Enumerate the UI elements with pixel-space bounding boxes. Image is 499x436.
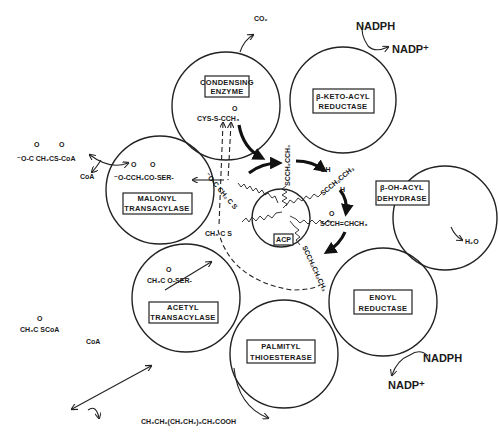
keto-reductase-label-2: REDUCTASE [319,102,368,111]
crotonyl-oxo: O [329,210,335,217]
h-label: H [340,186,345,193]
acp-label: ACP [276,236,291,243]
co2-label: CO₂ [254,15,268,22]
thioesterase-label-2: THIOESTERASE [250,353,312,362]
acetyl-coa-oxo: O [37,315,43,322]
keto-reductase-label-1: β-KETO-ACYL [316,92,370,101]
malonyl-transacylase-label-2: TRANSACYLASE [124,204,189,213]
butyryl-acp-label: SCCH₂CH₂CH₃ [301,244,328,292]
coa-malonyl-label: CoA [80,173,94,180]
fatty-acid-synthase-diagram: CONDENSING ENZYME β-KETO-ACYL REDUCTASE … [0,0,499,436]
oh-label: OH [320,166,331,173]
oh-acyl-dehydrase: β-OH-ACYL DEHYDRASE [376,166,497,270]
keto-acyl-reductase: β-KETO-ACYL REDUCTASE [290,47,396,153]
nadph-bottom-label: NADPH [423,352,462,364]
acp-center: ACP [252,189,310,247]
condensing-oxo: O [232,105,238,112]
enoyl-reductase: ENOYL REDUCTASE [329,248,437,356]
malonyl-coa-label: ⁻O-C CH₂CS-CoA [17,155,75,162]
acetyl-coa-label: CH₃C SCoA [20,326,59,333]
crotonyl-acp-label: SCCH=CHCH₃ [320,220,367,227]
acetyl-transacylase-label-1: ACETYL [167,303,199,312]
enoyl-reductase-label-2: REDUCTASE [359,304,408,313]
acetyl-transacylase-label-2: TRANSACYLASE [150,313,215,322]
malonyl-bound-oxo-2: O [150,161,156,168]
thioesterase-label-1: PALMITYL [261,342,300,351]
condensing-bound-label: CYS-S-CCH₃ [197,115,239,122]
h2o-label: H₂O [465,238,479,245]
nadp-top-label: NADP⁺ [392,43,429,55]
nadp-bottom-label: NADP⁺ [388,379,425,391]
acetyl-acp-label: CH₃ C S [205,230,232,237]
dehydrase-label-2: DEHYDRASE [377,194,427,203]
palmitate-label: CH₃CH₂(CH₂CH₂)₆CH₂COOH [141,418,236,426]
malonyl-bound-label: ⁻O-CCH₂CO-SER- [114,174,174,181]
acetoacetyl-acp-label: SCCH₂CCH₃ [284,145,291,186]
enoyl-reductase-label-1: ENOYL [369,293,396,302]
malonyl-transacylase-label-1: MALONYL [137,194,176,203]
coa-acetyl-label: CoA [86,338,100,345]
malonyl-coa-oxo-2: O [59,141,65,148]
acetyl-transacylase: ACETYL TRANSACYLASE [132,244,240,352]
acetyl-bound-oxo: O [166,266,172,273]
acetyl-bound-label: CH₃C O-SER- [147,277,193,284]
malonyl-coa-oxo-1: O [34,141,40,148]
palmityl-thioesterase: PALMITYL THIOESTERASE [230,300,338,408]
malonyl-acp-label: ⁻O-C CH₂ C S [204,171,239,211]
dehydrase-label-1: β-OH-ACYL [380,183,424,192]
condensing-enzyme-label-2: ENZYME [210,87,243,96]
nadph-top-label: NADPH [356,20,395,32]
malonyl-transacylase: MALONYL TRANSACYLASE [106,136,214,244]
malonyl-bound-oxo-1: O [131,161,137,168]
